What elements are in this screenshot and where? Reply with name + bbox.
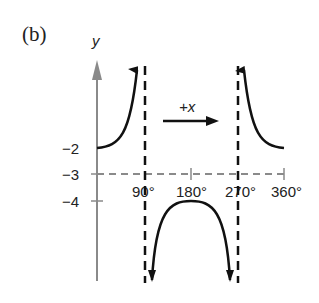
curve-right-branch xyxy=(244,70,284,148)
arrow-right-icon xyxy=(206,116,219,126)
curve-left-branch xyxy=(97,70,137,148)
graph: y −2 −3 −4 90° 180° 270° 360° +x xyxy=(0,0,319,303)
y-axis-arrow-icon xyxy=(92,60,102,80)
tick-label-y-m2: −2 xyxy=(62,140,79,157)
direction-label: +x xyxy=(179,98,196,115)
y-axis-label: y xyxy=(91,32,101,49)
tick-label-x-360: 360° xyxy=(271,183,302,200)
curve-middle-branch xyxy=(152,201,230,280)
arrow-down-icon xyxy=(148,270,156,282)
tick-label-y-m4: −4 xyxy=(62,193,79,210)
y-axis xyxy=(92,60,102,281)
tick-label-x-180: 180° xyxy=(176,183,207,200)
tick-label-x-270: 270° xyxy=(225,183,256,200)
arrow-down-icon xyxy=(226,270,234,282)
tick-label-y-m3: −3 xyxy=(62,166,79,183)
tick-label-x-90: 90° xyxy=(132,183,155,200)
